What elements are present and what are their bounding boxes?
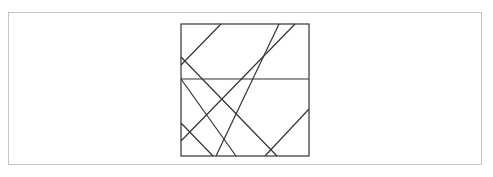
line-diagram bbox=[0, 0, 493, 177]
diagonal-line-f bbox=[181, 123, 213, 156]
diagonal-lines-group bbox=[181, 24, 309, 156]
diagonal-line-g bbox=[265, 109, 309, 156]
diagonal-line-d bbox=[181, 57, 277, 156]
diagonal-line-e bbox=[181, 79, 236, 156]
bounding-square bbox=[181, 24, 309, 156]
diagonal-line-a bbox=[181, 24, 221, 65]
diagonal-line-b bbox=[216, 24, 279, 156]
diagonal-line-c bbox=[181, 24, 295, 141]
